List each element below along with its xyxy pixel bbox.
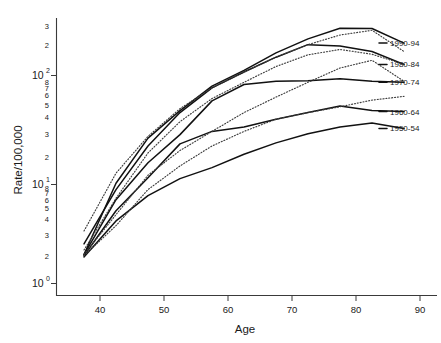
y-label-100-exponent: 2 — [46, 67, 50, 74]
y-minor-label-30: 3 — [45, 130, 49, 139]
y-minor-label-80: 8 — [45, 78, 49, 87]
chart-background — [0, 0, 441, 343]
x-tick-label-80: 80 — [351, 304, 362, 315]
chart-figure: 10 2 10 1 10 0 2 3 2 3 4 5 6 7 8 2 3 4 — [0, 0, 441, 343]
y-minor-label-2: 2 — [45, 252, 49, 261]
legend-label-1970-74: 1970-74 — [390, 78, 420, 87]
legend-label-1960-64: 1960-64 — [390, 108, 420, 117]
y-label-100-base: 10 — [32, 69, 44, 81]
x-axis-title: Age — [235, 323, 255, 335]
y-minor-label-200: 2 — [45, 41, 49, 50]
x-tick-label-90: 90 — [415, 304, 426, 315]
x-tick-label-60: 60 — [223, 304, 234, 315]
y-minor-label-5: 5 — [45, 204, 49, 213]
y-label-1-base: 10 — [32, 277, 44, 289]
legend-label-1980-84: 1980-84 — [390, 60, 420, 69]
y-minor-label-4: 4 — [45, 215, 49, 224]
line-chart-canvas: 10 2 10 1 10 0 2 3 2 3 4 5 6 7 8 2 3 4 — [0, 0, 441, 343]
y-minor-label-3: 3 — [45, 231, 49, 240]
y-label-1-exponent: 0 — [46, 275, 50, 282]
legend-label-1950-54: 1950-54 — [390, 124, 420, 133]
y-minor-label-20: 2 — [45, 153, 49, 162]
y-minor-label-40: 4 — [45, 113, 49, 122]
y-minor-label-8: 8 — [45, 184, 49, 193]
legend-label-1990-94: 1990-94 — [390, 39, 420, 48]
y-label-10-base: 10 — [32, 178, 44, 190]
x-tick-label-70: 70 — [287, 304, 298, 315]
y-label-10-exponent: 1 — [46, 176, 50, 183]
y-axis-title: Rate/100,000 — [12, 125, 24, 194]
x-tick-label-40: 40 — [95, 304, 106, 315]
y-minor-label-50: 5 — [45, 101, 49, 110]
x-tick-label-50: 50 — [159, 304, 170, 315]
y-minor-label-300: 3 — [45, 22, 49, 31]
